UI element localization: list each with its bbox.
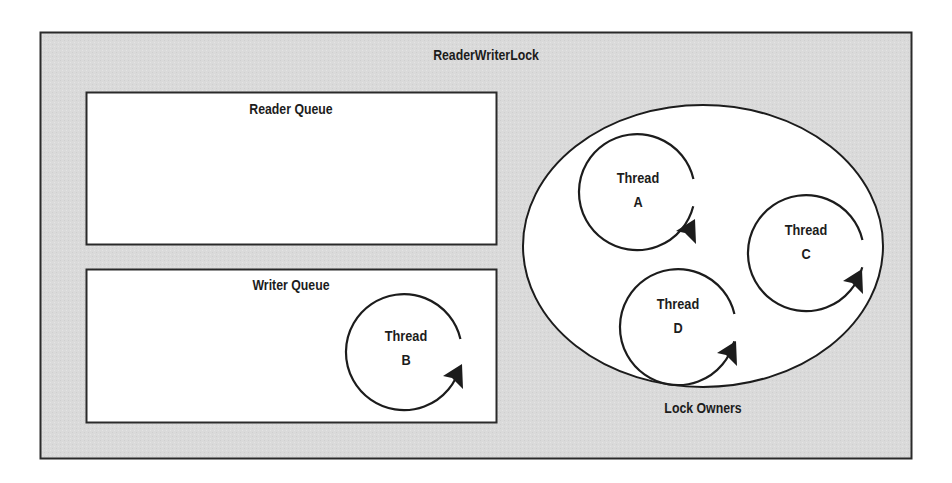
thread-a: Thread A — [598, 166, 678, 214]
thread-c-name: Thread — [772, 218, 840, 242]
writer-queue-label: Writer Queue — [238, 276, 345, 293]
thread-b: Thread B — [366, 324, 446, 372]
thread-a-id: A — [604, 190, 672, 214]
thread-d-name: Thread — [644, 292, 712, 316]
thread-a-name: Thread — [604, 166, 672, 190]
readerwriterlock-title: ReaderWriterLock — [429, 46, 544, 63]
reader-queue-label: Reader Queue — [238, 100, 345, 117]
diagram-canvas: ReaderWriterLock Reader Queue Writer Que… — [0, 0, 952, 483]
thread-c-id: C — [772, 242, 840, 266]
thread-d: Thread D — [638, 292, 718, 340]
thread-b-name: Thread — [372, 324, 440, 348]
thread-b-id: B — [372, 348, 440, 372]
thread-d-id: D — [644, 316, 712, 340]
lock-owners-label: Lock Owners — [650, 399, 757, 416]
thread-c: Thread C — [766, 218, 846, 266]
